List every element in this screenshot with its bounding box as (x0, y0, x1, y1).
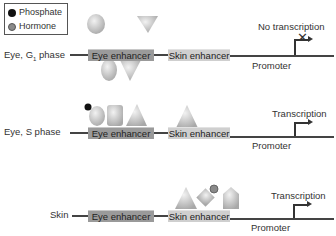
dna-line (72, 215, 88, 217)
dna-line (230, 218, 334, 220)
transcription-arrow (293, 204, 295, 218)
outcome-label: Transcription (271, 190, 326, 201)
hormone-icon (210, 185, 218, 193)
house-protein-icon (223, 187, 239, 209)
promoter-label: Promoter (251, 222, 290, 233)
eye-enhancer: Eye enhancer (88, 210, 154, 222)
row-label: Skin (50, 209, 68, 220)
transcription-arrow (293, 204, 307, 206)
dna-line (154, 215, 168, 217)
triangle-protein-icon (175, 187, 197, 209)
skin-enhancer: Skin enhancer (168, 210, 230, 222)
arrow-head-icon (307, 201, 312, 207)
